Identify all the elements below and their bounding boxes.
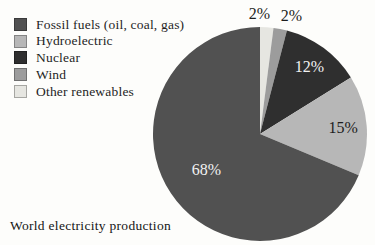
figure: Fossil fuels (oil, coal, gas) Hydroelect… bbox=[0, 0, 375, 245]
legend-label-fossil-fuels: Fossil fuels (oil, coal, gas) bbox=[36, 18, 184, 32]
slice-value-label: 2% bbox=[249, 5, 270, 22]
slice-value-label: 15% bbox=[329, 119, 358, 136]
legend-swatch-wind bbox=[14, 68, 27, 81]
legend-label-wind: Wind bbox=[36, 68, 66, 82]
legend-item: Hydroelectric bbox=[14, 33, 184, 50]
legend: Fossil fuels (oil, coal, gas) Hydroelect… bbox=[14, 16, 184, 100]
legend-swatch-other-renewables bbox=[14, 85, 27, 98]
slice-value-label: 12% bbox=[295, 58, 324, 75]
slice-value-label: 68% bbox=[192, 161, 221, 178]
legend-item: Fossil fuels (oil, coal, gas) bbox=[14, 16, 184, 33]
legend-label-other-renewables: Other renewables bbox=[36, 85, 134, 99]
slice-value-label: 2% bbox=[281, 7, 302, 24]
legend-swatch-hydroelectric bbox=[14, 35, 27, 48]
legend-item: Nuclear bbox=[14, 50, 184, 67]
legend-swatch-nuclear bbox=[14, 51, 27, 64]
legend-swatch-fossil-fuels bbox=[14, 18, 27, 31]
legend-label-hydroelectric: Hydroelectric bbox=[36, 34, 113, 48]
legend-item: Wind bbox=[14, 66, 184, 83]
legend-item: Other renewables bbox=[14, 83, 184, 100]
chart-title: World electricity production bbox=[10, 218, 171, 234]
legend-label-nuclear: Nuclear bbox=[36, 51, 80, 65]
